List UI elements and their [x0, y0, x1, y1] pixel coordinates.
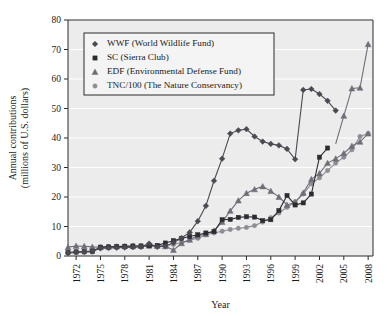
- y-tick-label: 60: [52, 74, 62, 84]
- data-point-circle: [252, 223, 256, 227]
- y-tick-label: 40: [52, 133, 62, 143]
- legend-label: EDF (Environmental Defense Fund): [107, 66, 241, 76]
- data-point-square: [293, 203, 297, 207]
- x-axis-ticks: 1972197519781981198419871990199319961999…: [72, 256, 374, 283]
- x-tick-label: 1990: [218, 264, 228, 283]
- x-tick-label: 1987: [193, 264, 203, 283]
- data-point-square: [325, 146, 329, 150]
- y-tick-label: 50: [52, 104, 62, 114]
- line-chart: 01020304050607080 1972197519781981198419…: [0, 0, 387, 316]
- data-point-square: [244, 215, 248, 219]
- y-axis-title-line2: (millions of U.S. dollars): [19, 88, 31, 188]
- y-tick-label: 30: [52, 163, 62, 173]
- y-axis-ticks: 01020304050607080: [52, 15, 69, 261]
- data-point-circle: [236, 226, 240, 230]
- legend-label: SC (Sierra Club): [107, 52, 169, 62]
- legend-label: TNC/100 (The Nature Conservancy): [107, 80, 242, 90]
- legend-entry[interactable]: TNC/100 (The Nature Conservancy): [93, 80, 242, 90]
- x-tick-label: 1999: [291, 264, 301, 283]
- x-tick-label: 1972: [72, 264, 82, 283]
- data-point-square: [252, 215, 256, 219]
- x-tick-label: 1978: [120, 264, 130, 283]
- data-point-circle: [93, 84, 97, 88]
- y-tick-label: 10: [52, 222, 62, 232]
- y-axis-title-line1: Annual contributions: [7, 96, 18, 181]
- x-axis-title: Year: [211, 299, 230, 310]
- y-tick-label: 20: [52, 192, 62, 202]
- chart-container: 01020304050607080 1972197519781981198419…: [0, 0, 387, 316]
- x-tick-label: 1984: [169, 264, 179, 283]
- data-point-circle: [325, 168, 329, 172]
- data-point-square: [301, 201, 305, 205]
- x-tick-label: 1993: [242, 264, 252, 283]
- data-point-circle: [358, 134, 362, 138]
- x-tick-label: 2002: [315, 264, 325, 283]
- data-point-circle: [317, 176, 321, 180]
- data-point-square: [269, 218, 273, 222]
- legend-entry[interactable]: WWF (World Wildlife Fund): [92, 38, 214, 48]
- y-tick-label: 80: [52, 15, 62, 25]
- chart-legend: WWF (World Wildlife Fund)SC (Sierra Club…: [84, 33, 274, 95]
- data-point-square: [196, 233, 200, 237]
- y-tick-label: 0: [56, 251, 61, 261]
- x-tick-label: 1975: [96, 264, 106, 283]
- data-point-square: [285, 193, 289, 197]
- data-point-square: [317, 155, 321, 159]
- data-point-circle: [220, 229, 224, 233]
- data-point-square: [228, 217, 232, 221]
- legend-entry[interactable]: EDF (Environmental Defense Fund): [92, 66, 241, 76]
- data-point-square: [204, 231, 208, 235]
- data-point-square: [277, 208, 281, 212]
- data-point-circle: [333, 161, 337, 165]
- data-point-square: [236, 215, 240, 219]
- x-tick-label: 2008: [364, 264, 374, 283]
- x-tick-label: 2005: [339, 264, 349, 283]
- data-point-circle: [228, 227, 232, 231]
- data-point-square: [93, 56, 97, 60]
- legend-label: WWF (World Wildlife Fund): [107, 38, 214, 48]
- x-tick-label: 1996: [266, 264, 276, 283]
- x-tick-label: 1981: [145, 264, 155, 283]
- data-point-circle: [244, 225, 248, 229]
- data-point-square: [261, 219, 265, 223]
- y-tick-label: 70: [52, 45, 62, 55]
- data-point-square: [220, 218, 224, 222]
- data-point-square: [212, 229, 216, 233]
